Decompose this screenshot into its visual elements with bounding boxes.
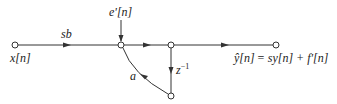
arrow-feedback [140, 74, 148, 80]
label-output-lhs: ŷ[n] [233, 51, 255, 65]
label-input: x[n] [9, 51, 31, 65]
arrow-forward [143, 43, 151, 48]
node-input [12, 42, 18, 48]
node-output [273, 42, 279, 48]
label-noise-input: e'[n] [109, 5, 133, 19]
node-delay [168, 93, 174, 99]
label-delay: z−1 [175, 62, 189, 77]
label-output-eq: = sy[n] + f'[n] [257, 51, 329, 65]
arrow-delay [169, 67, 174, 74]
label-delay-exp: −1 [181, 62, 190, 71]
node-sum [118, 42, 124, 48]
label-output: ŷ[n]= sy[n] + f'[n] [233, 51, 329, 65]
arrow-output [221, 43, 229, 48]
arrow-noise [119, 35, 124, 42]
label-feedback-gain: a [130, 69, 136, 83]
arrow-sb [63, 43, 71, 48]
node-branch [168, 42, 174, 48]
label-input-gain: sb [61, 27, 72, 41]
signal-flow-graph: x[n] sb e'[n] a z−1 ŷ[n]= sy[n] + f'[n] [0, 0, 337, 104]
